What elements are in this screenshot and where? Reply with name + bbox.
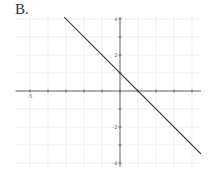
- x-tick-label: -5: [28, 93, 33, 99]
- y-tick-label: -4: [113, 160, 118, 166]
- y-tick-label: -2: [113, 124, 118, 130]
- line-y-equals-neg-x-plus-1: [64, 17, 201, 154]
- coordinate-plane: -542-2-4: [0, 0, 217, 174]
- axes: [16, 17, 201, 166]
- y-tick-label: 4: [114, 16, 117, 22]
- plotted-line: [64, 17, 201, 154]
- y-tick-label: 2: [114, 52, 117, 58]
- grid-lines: [16, 17, 201, 166]
